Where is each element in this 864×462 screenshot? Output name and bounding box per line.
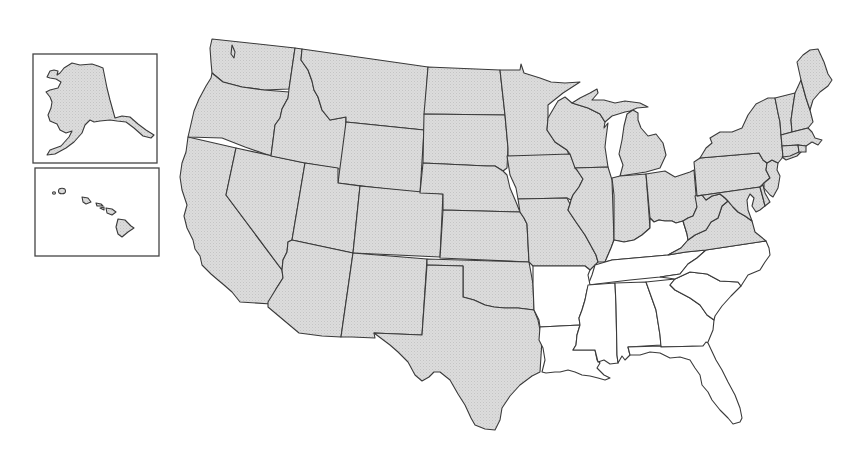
state-south-dakota[interactable] bbox=[423, 114, 508, 171]
state-florida[interactable] bbox=[628, 342, 742, 424]
alaska-inset bbox=[33, 54, 157, 163]
contiguous-us bbox=[180, 39, 832, 430]
state-new-mexico[interactable] bbox=[341, 253, 427, 338]
state-rhode-island[interactable] bbox=[798, 145, 806, 152]
state-ohio[interactable] bbox=[646, 170, 697, 223]
state-colorado[interactable] bbox=[353, 186, 443, 257]
hawaii-inset bbox=[35, 168, 159, 256]
state-iowa[interactable] bbox=[507, 154, 583, 200]
us-map bbox=[0, 0, 864, 462]
state-wyoming[interactable] bbox=[338, 122, 424, 193]
state-kansas[interactable] bbox=[440, 210, 529, 262]
state-indiana[interactable] bbox=[612, 174, 650, 242]
state-north-dakota[interactable] bbox=[424, 67, 505, 115]
hawaii-inset-frame bbox=[35, 168, 159, 256]
